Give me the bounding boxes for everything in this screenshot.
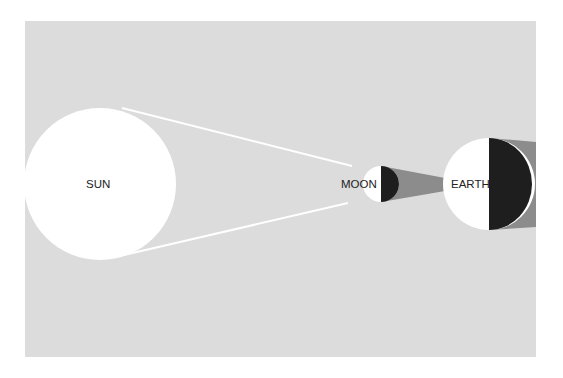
moon-label: MOON	[341, 178, 377, 190]
eclipse-diagram: SUN MOON EARTH	[0, 0, 563, 378]
sun-label: SUN	[86, 178, 110, 190]
earth-label: EARTH	[451, 178, 490, 190]
